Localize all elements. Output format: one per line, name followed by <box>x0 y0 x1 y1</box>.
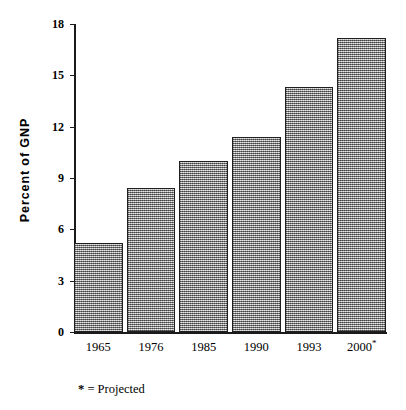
y-tick-mark <box>70 178 75 179</box>
footnote-equals: = <box>87 382 94 396</box>
y-tick-label: 9 <box>58 171 64 186</box>
y-tick-label: 0 <box>58 325 64 340</box>
x-tick-label: 1965 <box>86 340 111 355</box>
footnote: * = Projected <box>78 382 145 397</box>
x-tick-label: 1976 <box>139 340 164 355</box>
bar <box>232 137 281 332</box>
y-tick-label: 3 <box>58 273 64 288</box>
y-tick-mark <box>70 229 75 230</box>
footnote-star-icon: * <box>78 382 84 396</box>
y-tick-label: 12 <box>52 119 64 134</box>
y-axis-title: Percent of GNP <box>14 0 36 340</box>
y-tick-label: 15 <box>52 68 64 83</box>
y-tick-mark <box>70 332 75 333</box>
x-tick-label: 1990 <box>244 340 269 355</box>
x-tick-label: 1985 <box>191 340 216 355</box>
y-tick-mark <box>70 127 75 128</box>
x-axis-line <box>74 332 387 334</box>
bar <box>179 161 228 332</box>
x-tick-label: 1993 <box>297 340 322 355</box>
bar <box>74 243 123 332</box>
plot-area: 0369121518 196519761985199019932000* <box>74 24 386 332</box>
footnote-label: Projected <box>98 382 145 396</box>
y-tick-mark <box>70 24 75 25</box>
y-tick-mark <box>70 75 75 76</box>
bar <box>285 87 334 332</box>
bar-chart: Percent of GNP 0369121518 19651976198519… <box>0 0 406 410</box>
y-tick-label: 18 <box>52 17 64 32</box>
x-tick-label: 2000* <box>347 340 377 355</box>
bar <box>127 188 176 332</box>
y-tick-label: 6 <box>58 222 64 237</box>
bar <box>337 38 386 332</box>
